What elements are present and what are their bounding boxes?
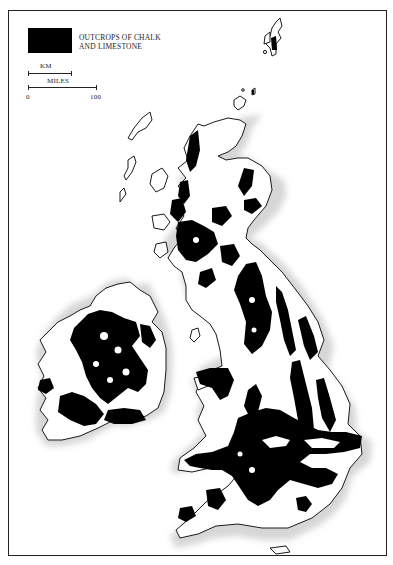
scale-tick-100: 100 <box>90 93 101 101</box>
scale-km-label: KM <box>40 62 52 70</box>
legend-swatch-outcrops <box>28 28 72 53</box>
northern-isles-outcrops <box>252 36 277 94</box>
outer-hebrides <box>120 112 152 202</box>
scale-bar-miles <box>28 87 97 88</box>
legend-label: OUTCROPS OF CHALK AND LIMESTONE <box>79 33 161 51</box>
northern-isles <box>234 18 282 110</box>
legend-label-line1: OUTCROPS OF CHALK <box>79 33 161 42</box>
scale-tick-zero: 0 <box>26 93 30 101</box>
legend-label-line2: AND LIMESTONE <box>79 42 161 51</box>
scale-miles-label: MILES <box>47 77 69 85</box>
scale-bar-km <box>28 73 72 74</box>
